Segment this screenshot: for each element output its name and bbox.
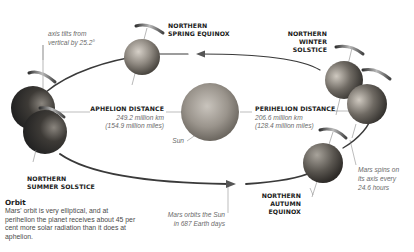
spring-equinox-label-1: NORTHERN — [168, 22, 207, 29]
mars-autumn-equinox — [303, 129, 346, 197]
mars-planet-icon — [347, 84, 387, 124]
orbit-period-label-2: in 687 Earth days — [174, 220, 226, 228]
mars-summer-solstice — [11, 45, 67, 162]
mars-winter-solstice — [325, 46, 390, 138]
sun-leader — [187, 134, 197, 141]
caption-title: Orbit — [5, 198, 26, 207]
perihelion-distance-miles: (128.4 million miles) — [255, 122, 314, 130]
mars-spring-equinox — [124, 25, 163, 85]
axis-tilt-label-2: vertical by 25.2° — [48, 39, 95, 47]
mars-planet-icon — [303, 143, 343, 183]
spin-arrow-icon — [363, 69, 390, 79]
spin-leader — [350, 140, 356, 165]
perihelion-distance-km: 206.6 million km — [254, 114, 303, 121]
autumn-equinox-label-3: EQUINOX — [268, 208, 301, 215]
spin-label-2: its axis every — [358, 175, 397, 183]
summer-solstice-label-1: NORTHERN — [27, 175, 66, 182]
mars-planet-icon — [124, 39, 160, 75]
orbit-period-label-1: Mars orbits the Sun — [168, 211, 226, 218]
summer-solstice-label-2: SUMMER SOLSTICE — [27, 183, 95, 190]
axis-tilt-label-1: axis tilts from — [48, 30, 87, 37]
mars-planet-icon — [23, 110, 67, 154]
autumn-equinox-label-2: AUTUMN — [270, 200, 301, 207]
aphelion-distance-title: APHELION DISTANCE — [90, 105, 164, 112]
spin-arrow-icon — [136, 25, 163, 33]
spin-arrow-icon — [29, 72, 55, 82]
winter-solstice-label-2: WINTER — [299, 38, 327, 45]
sun-label: Sun — [172, 137, 184, 144]
aphelion-distance-miles: (154.9 million miles) — [105, 122, 164, 130]
spin-label-3: 24.6 hours — [357, 184, 390, 191]
orbit-segment-upper-right — [200, 54, 320, 70]
spin-arrow-icon — [336, 46, 363, 54]
spin-arrow-icon — [320, 129, 346, 138]
orbit-segment-lower-mid — [246, 172, 312, 184]
orbit-arrow-top — [196, 51, 205, 58]
autumn-leader — [310, 188, 313, 195]
orbit-arrow-bottom — [226, 180, 236, 188]
perihelion-distance-title: PERIHELION DISTANCE — [255, 105, 335, 112]
autumn-equinox-label-1: NORTHERN — [262, 192, 301, 199]
caption-text: Mars' orbit is very elliptical, and at p… — [5, 207, 139, 241]
orbit-segment-lower-left — [60, 154, 228, 184]
spin-label-1: Mars spins on — [358, 166, 399, 174]
spring-equinox-label-2: SPRING EQUINOX — [168, 30, 230, 37]
winter-solstice-label-3: SOLSTICE — [293, 46, 327, 53]
sun-image — [181, 83, 239, 141]
aphelion-distance-km: 249.2 million km — [115, 114, 164, 121]
winter-solstice-label-1: NORTHERN — [288, 30, 327, 37]
